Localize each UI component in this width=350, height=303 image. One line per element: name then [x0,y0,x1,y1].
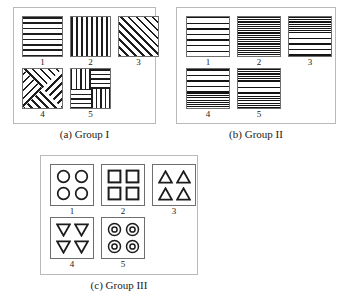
texture-squares [101,164,145,206]
swatch-label: 5 [101,259,145,269]
triangle-down-icon [56,223,71,237]
swatch-cell-group-ii-4: 4 [186,68,230,109]
texture-dense-edges-sparse-middle [237,68,281,109]
swatch-cell-group-iii-2: 2 [101,164,145,206]
swatch-label: 4 [22,109,63,119]
swatch-label: 5 [237,109,281,119]
circle-icon [56,169,71,184]
swatch-label: 1 [50,206,94,216]
swatch-label: 2 [101,206,145,216]
concentric-circle-icon [107,222,122,237]
swatch-label: 3 [152,206,196,216]
swatch-label: 2 [237,57,281,67]
texture-down-triangles [50,217,94,259]
texture-horizontal-stripes [22,16,63,57]
texture-quadrant-crossed-stripes [70,68,111,109]
swatch-cell-group-iii-1: 1 [50,164,94,206]
swatch-label: 1 [186,57,230,67]
swatch-cell-group-iii-5: 5 [101,217,145,259]
panel-caption-group-i: (a) Group I [13,128,156,140]
panel-group-i: 1 2 3 4 5 [13,7,156,124]
texture-groups-figure: 1 2 3 4 5 (a) Group I 1 [0,0,350,303]
texture-circles [50,164,94,206]
circle-icon [74,186,89,201]
swatch-cell-group-iii-4: 4 [50,217,94,259]
panel-caption-group-iii: (c) Group III [40,279,198,291]
swatch-cell-group-iii-3: 3 [152,164,196,206]
swatch-cell-group-ii-5: 5 [237,68,281,109]
swatch-cell-group-i-5: 5 [70,68,111,109]
swatch-cell-group-i-3: 3 [118,16,159,57]
texture-chevron-x-stripes [22,68,63,109]
swatch-label: 4 [50,259,94,269]
texture-high-frequency-stripes [237,16,281,57]
texture-vertical-stripes [70,16,111,57]
swatch-cell-group-ii-3: 3 [288,16,332,57]
swatch-cell-group-i-4: 4 [22,68,63,109]
circle-icon [56,186,71,201]
triangle-up-icon [176,187,191,201]
swatch-label: 2 [70,57,111,67]
concentric-circle-icon [125,222,140,237]
texture-low-frequency-stripes [186,16,230,57]
texture-dense-top-sparse-bottom [288,16,332,57]
swatch-cell-group-i-2: 2 [70,16,111,57]
square-icon [107,169,122,184]
triangle-down-icon [56,240,71,254]
texture-concentric-circles [101,217,145,259]
square-icon [107,186,122,201]
triangle-up-icon [176,170,191,184]
swatch-cell-group-ii-1: 1 [186,16,230,57]
texture-sparse-top-dense-bottom [186,68,230,109]
swatch-label: 3 [288,57,332,67]
texture-diagonal-stripes [118,16,159,57]
swatch-cell-group-ii-2: 2 [237,16,281,57]
square-icon [125,169,140,184]
square-icon [125,186,140,201]
triangle-down-icon [74,240,89,254]
triangle-down-icon [74,223,89,237]
swatch-label: 5 [70,109,111,119]
swatch-label: 3 [118,57,159,67]
triangle-up-icon [158,170,173,184]
concentric-circle-icon [107,239,122,254]
panel-caption-group-ii: (b) Group II [176,128,336,140]
concentric-circle-icon [125,239,140,254]
swatch-cell-group-i-1: 1 [22,16,63,57]
swatch-label: 1 [22,57,63,67]
circle-icon [74,169,89,184]
swatch-label: 4 [186,109,230,119]
panel-group-ii: 1 2 3 4 5 [176,7,336,124]
triangle-up-icon [158,187,173,201]
texture-up-triangles [152,164,196,206]
panel-group-iii: 1 2 3 [40,155,198,275]
